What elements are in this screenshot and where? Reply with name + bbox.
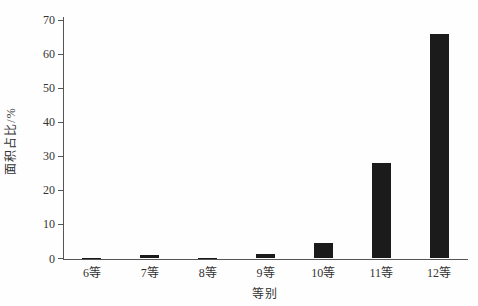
plot-area: 010203040506070 6等7等8等9等10等11等12等 面积占比/%… bbox=[0, 0, 478, 306]
y-tick-mark bbox=[58, 88, 63, 89]
x-tick-label: 8等 bbox=[186, 266, 230, 280]
y-tick-label: 50 bbox=[29, 81, 55, 95]
y-tick-mark bbox=[58, 122, 63, 123]
x-tick-label: 10等 bbox=[301, 266, 345, 280]
y-tick-mark bbox=[58, 54, 63, 55]
y-tick-label: 30 bbox=[29, 149, 55, 163]
x-tick-label: 12等 bbox=[417, 266, 461, 280]
x-tick-label: 11等 bbox=[359, 266, 403, 280]
y-tick-label: 10 bbox=[29, 217, 55, 231]
y-tick-mark bbox=[58, 156, 63, 157]
x-tick-label: 7等 bbox=[128, 266, 172, 280]
y-tick-label: 40 bbox=[29, 115, 55, 129]
x-axis-label: 等别 bbox=[235, 284, 295, 302]
y-tick-label: 60 bbox=[29, 47, 55, 61]
y-tick-mark bbox=[58, 20, 63, 21]
bar-7deng bbox=[140, 255, 159, 258]
bar-12deng bbox=[430, 34, 449, 259]
y-tick-label: 0 bbox=[29, 252, 55, 266]
bar-9deng bbox=[256, 254, 275, 258]
x-tick-label: 6等 bbox=[70, 266, 114, 280]
bar-10deng bbox=[314, 243, 333, 259]
bar-chart: 010203040506070 6等7等8等9等10等11等12等 面积占比/%… bbox=[0, 0, 478, 306]
y-tick-mark bbox=[58, 224, 63, 225]
y-tick-mark bbox=[58, 190, 63, 191]
y-axis-spine bbox=[63, 17, 64, 260]
bar-8deng bbox=[198, 258, 217, 259]
x-axis-line bbox=[63, 259, 468, 260]
y-tick-mark bbox=[58, 258, 63, 259]
bar-11deng bbox=[372, 163, 391, 258]
y-axis-label: 面积占比/% bbox=[1, 91, 19, 191]
x-tick-label: 9等 bbox=[244, 266, 288, 280]
y-tick-label: 20 bbox=[29, 183, 55, 197]
y-tick-label: 70 bbox=[29, 13, 55, 27]
